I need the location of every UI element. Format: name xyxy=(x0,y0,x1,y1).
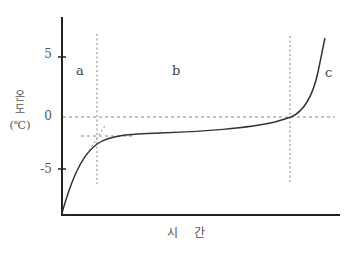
chart-canvas xyxy=(0,0,357,254)
region-label-c: c xyxy=(325,66,332,79)
region-label-b: b xyxy=(172,64,180,77)
temperature-curve xyxy=(62,38,325,213)
y-tick-label-neg5: -5 xyxy=(28,163,52,175)
y-axis-label-3: (℃) xyxy=(5,120,35,131)
y-axis-label-1: 온 xyxy=(5,91,35,102)
y-tick-label-5: 5 xyxy=(28,48,52,60)
x-axis-label: 시 간 xyxy=(167,227,211,239)
y-axis-label-2: 도 xyxy=(5,104,35,115)
region-label-a: a xyxy=(76,64,84,77)
